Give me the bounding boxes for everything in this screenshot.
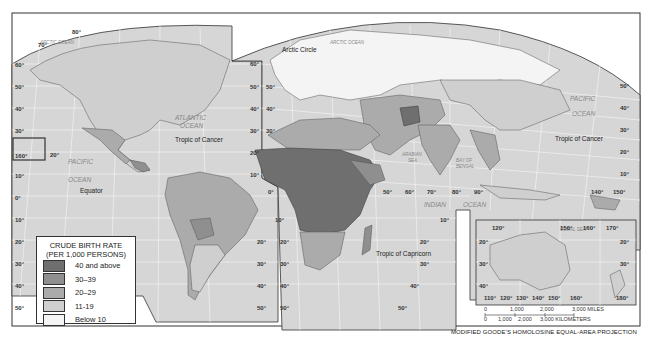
svg-text:20°: 20°: [620, 239, 630, 245]
svg-text:90°: 90°: [474, 189, 484, 195]
svg-text:OCEAN: OCEAN: [68, 176, 91, 183]
svg-text:120°: 120°: [492, 225, 505, 231]
svg-text:20°: 20°: [280, 239, 290, 245]
svg-text:PACIFIC: PACIFIC: [68, 158, 93, 165]
scale-tick: 0: [484, 306, 510, 312]
svg-text:50°: 50°: [398, 305, 408, 311]
svg-text:70°: 70°: [427, 189, 437, 195]
svg-text:40°: 40°: [250, 106, 260, 112]
legend-item: Below 10: [43, 313, 135, 327]
svg-text:130°: 130°: [516, 295, 529, 301]
svg-text:50°: 50°: [257, 305, 267, 311]
scale-bar: 0 1,000 2,000 3,000 MILES 0 1,000 2,000 …: [484, 306, 604, 322]
svg-text:160°: 160°: [15, 153, 28, 159]
svg-text:20°: 20°: [620, 149, 630, 155]
svg-text:Equator: Equator: [80, 187, 104, 195]
svg-text:40°: 40°: [620, 105, 630, 111]
legend-title: CRUDE BIRTH RATE (PER 1,000 PERSONS): [37, 241, 135, 259]
svg-text:40°: 40°: [410, 283, 420, 289]
scale-miles: 0 1,000 2,000 3,000 MILES: [484, 306, 604, 312]
legend-label: Below 10: [75, 315, 106, 324]
svg-text:10°: 10°: [15, 217, 25, 223]
svg-text:Arctic Circle: Arctic Circle: [282, 46, 317, 53]
svg-text:0°: 0°: [15, 195, 21, 201]
svg-text:70°: 70°: [38, 42, 48, 48]
svg-text:40°: 40°: [479, 283, 489, 289]
legend-swatch-40-plus: [43, 260, 65, 272]
svg-text:40°: 40°: [280, 283, 290, 289]
svg-text:30°: 30°: [620, 127, 630, 133]
legend-swatch-11-19: [43, 300, 65, 312]
legend-label: 40 and above: [75, 261, 120, 270]
legend-label: 30–39: [75, 275, 96, 284]
scale-tick: 1,000: [510, 306, 540, 312]
svg-text:10°: 10°: [440, 217, 450, 223]
scale-tick: 0: [484, 316, 498, 322]
projection-note: MODIFIED GOODE'S HOMOLOSINE EQUAL-AREA P…: [451, 329, 637, 335]
svg-text:60°: 60°: [405, 189, 415, 195]
svg-text:10°: 10°: [275, 217, 285, 223]
svg-text:Tropic of Capricorn: Tropic of Capricorn: [376, 250, 431, 258]
svg-text:150°: 150°: [560, 225, 573, 231]
svg-text:INDIAN: INDIAN: [424, 201, 446, 208]
svg-text:OCEAN: OCEAN: [463, 201, 486, 208]
svg-text:50°: 50°: [15, 305, 25, 311]
svg-text:180°: 180°: [616, 295, 629, 301]
svg-text:10°: 10°: [15, 173, 25, 179]
svg-text:20°: 20°: [250, 150, 260, 156]
svg-text:150°: 150°: [613, 189, 626, 195]
svg-text:ATLANTIC: ATLANTIC: [174, 114, 206, 121]
svg-text:30°: 30°: [15, 261, 25, 267]
svg-text:20°: 20°: [420, 239, 430, 245]
svg-text:50°: 50°: [266, 84, 276, 90]
svg-text:20°: 20°: [257, 239, 267, 245]
svg-text:30°: 30°: [420, 261, 430, 267]
svg-text:OCEAN: OCEAN: [572, 110, 595, 117]
svg-text:30°: 30°: [257, 261, 267, 267]
svg-text:120°: 120°: [500, 295, 513, 301]
scale-tick: 3,000 KILOMETERS: [540, 316, 591, 322]
legend-title-line1: CRUDE BIRTH RATE: [37, 241, 135, 250]
svg-text:50°: 50°: [383, 189, 393, 195]
svg-text:20°: 20°: [479, 239, 489, 245]
svg-text:Tropic of Cancer: Tropic of Cancer: [555, 135, 604, 143]
legend: CRUDE BIRTH RATE (PER 1,000 PERSONS) 40 …: [36, 236, 136, 324]
svg-text:20°: 20°: [15, 239, 25, 245]
svg-text:140°: 140°: [532, 295, 545, 301]
svg-text:30°: 30°: [620, 261, 630, 267]
svg-text:30°: 30°: [266, 128, 276, 134]
svg-text:140°: 140°: [591, 189, 604, 195]
legend-swatch-below-10: [43, 314, 65, 326]
svg-text:10°: 10°: [250, 172, 260, 178]
svg-text:60°: 60°: [15, 62, 25, 68]
svg-text:30°: 30°: [280, 261, 290, 267]
svg-text:40°: 40°: [266, 106, 276, 112]
svg-text:10°: 10°: [620, 171, 630, 177]
svg-text:160°: 160°: [583, 225, 596, 231]
svg-text:30°: 30°: [250, 128, 260, 134]
legend-label: 11-19: [75, 302, 94, 311]
svg-text:ARABIAN: ARABIAN: [401, 152, 423, 157]
svg-text:BAY OF: BAY OF: [456, 158, 472, 163]
svg-text:80°: 80°: [452, 189, 462, 195]
svg-text:110°: 110°: [484, 295, 497, 301]
scale-km: 0 1,000 2,000 3,000 KILOMETERS: [484, 316, 604, 322]
svg-text:40°: 40°: [15, 283, 25, 289]
svg-text:30°: 30°: [479, 261, 489, 267]
svg-text:30°: 30°: [15, 128, 25, 134]
svg-text:40°: 40°: [15, 106, 25, 112]
svg-text:SEA: SEA: [408, 158, 417, 163]
legend-item: 30–39: [43, 273, 135, 287]
svg-text:50°: 50°: [15, 84, 25, 90]
legend-label: 20–29: [75, 288, 96, 297]
svg-text:150°: 150°: [548, 295, 561, 301]
svg-text:170°: 170°: [606, 225, 619, 231]
svg-text:ARCTIC OCEAN: ARCTIC OCEAN: [329, 40, 365, 45]
svg-text:80°: 80°: [72, 29, 82, 35]
svg-text:50°: 50°: [280, 305, 290, 311]
svg-text:0°: 0°: [268, 189, 274, 195]
scale-tick: 2,000: [540, 306, 572, 312]
legend-swatch-30-39: [43, 273, 65, 285]
svg-text:PACIFIC: PACIFIC: [570, 95, 595, 102]
scale-tick: 2,000: [518, 316, 540, 322]
